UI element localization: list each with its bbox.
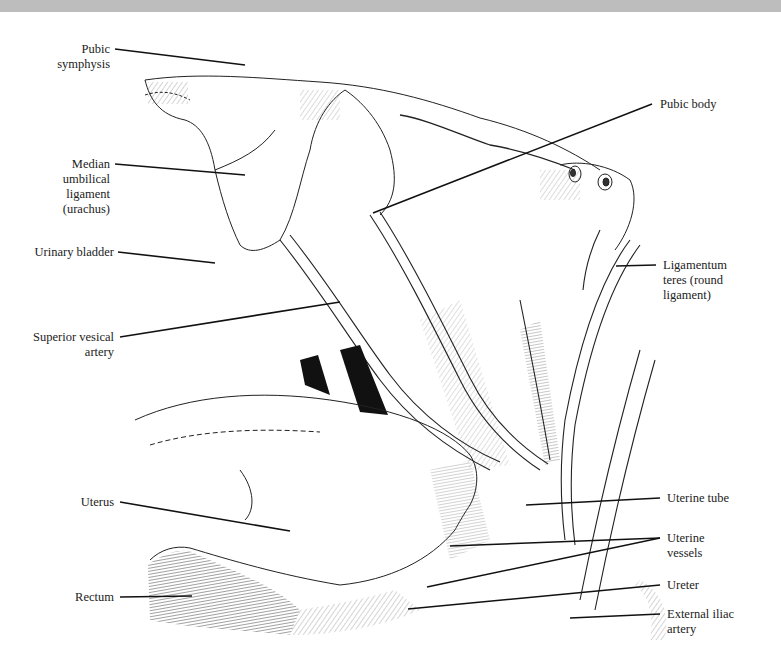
label-median-umbilical-ligament: Median umbilical ligament (urachus) xyxy=(10,157,110,217)
label-urinary-bladder: Urinary bladder xyxy=(0,245,114,260)
hatching xyxy=(148,82,188,104)
label-uterus: Uterus xyxy=(40,495,114,510)
leader-lines xyxy=(115,49,660,618)
label-uterine-tube: Uterine tube xyxy=(667,491,777,506)
leader-ureter xyxy=(408,585,660,609)
label-pubic-body: Pubic body xyxy=(660,97,770,112)
leader-pubic-body xyxy=(373,104,652,213)
pubic-region-drawing xyxy=(145,76,600,250)
leader-external-iliac-artery xyxy=(570,614,660,618)
leader-uterine-tube xyxy=(526,498,660,505)
label-rectum: Rectum xyxy=(40,590,114,605)
dark-cavity xyxy=(340,345,388,415)
label-uterine-vessels: Uterine vessels xyxy=(667,531,777,561)
dark-cavity xyxy=(300,355,330,395)
leader-superior-vesical-artery xyxy=(120,302,340,337)
label-ureter: Ureter xyxy=(667,578,777,593)
anatomy-figure: Pubic symphysis Median umbilical ligamen… xyxy=(0,0,781,661)
label-pubic-symphysis: Pubic symphysis xyxy=(10,42,110,72)
label-ligamentum-teres: Ligamentum teres (round ligament) xyxy=(663,258,773,303)
leader-urinary-bladder xyxy=(118,252,215,263)
label-external-iliac-artery: External iliac artery xyxy=(667,607,777,637)
rectum-hatching xyxy=(148,551,300,635)
leader-rectum xyxy=(120,596,192,597)
label-superior-vesical-artery: Superior vesical artery xyxy=(0,330,114,360)
leader-uterus xyxy=(120,502,290,531)
leader-ligamentum-teres xyxy=(616,265,656,266)
leader-pubic-symphysis xyxy=(115,49,245,65)
